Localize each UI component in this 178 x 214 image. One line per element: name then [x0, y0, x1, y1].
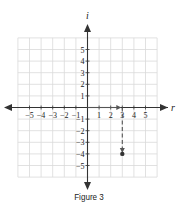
x-tick-label: 5: [144, 111, 148, 120]
plotted-point: [120, 152, 124, 156]
arrow-left-icon: [4, 104, 12, 111]
x-tick-label: −4: [37, 111, 46, 120]
y-tick-label: 5: [81, 46, 85, 55]
y-tick-label: −5: [76, 162, 85, 171]
x-tick-label: −2: [60, 111, 69, 120]
horizontal-axis-label: r: [171, 102, 175, 113]
arrow-down-icon: [84, 182, 91, 190]
x-tick-label: −3: [48, 111, 57, 120]
x-tick-label: 4: [132, 111, 136, 120]
vertical-axis-label: i: [86, 10, 89, 21]
y-tick-label: −2: [76, 127, 85, 136]
y-tick-label: 3: [81, 69, 85, 78]
complex-plane-figure: −5−4−3−2−11234554321−1−2−3−4−5 r i: [0, 0, 178, 214]
y-tick-label: 2: [81, 80, 85, 89]
y-tick-label: −3: [76, 138, 85, 147]
y-tick-label: 1: [81, 92, 85, 101]
y-tick-label: 4: [81, 57, 85, 66]
x-tick-label: 1: [97, 111, 101, 120]
figure-caption: Figure 3: [13, 191, 164, 202]
x-tick-label: 2: [109, 111, 113, 120]
arrowhead-icon: [116, 105, 121, 110]
arrow-up-icon: [84, 24, 91, 32]
y-tick-label: −1: [76, 115, 85, 124]
x-tick-label: −5: [25, 111, 34, 120]
arrow-right-icon: [160, 104, 168, 111]
y-tick-label: −4: [76, 150, 85, 159]
